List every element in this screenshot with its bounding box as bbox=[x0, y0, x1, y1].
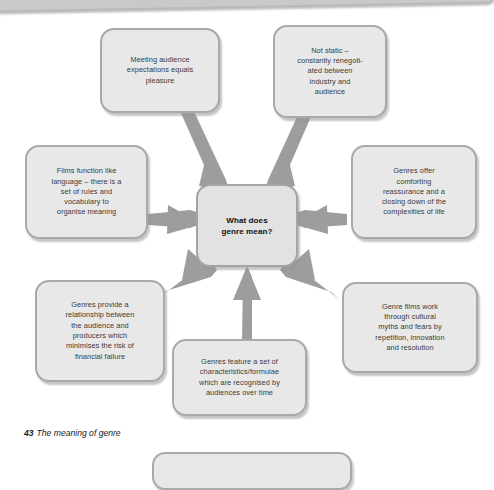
node-label: Genres feature a set of characteristics/… bbox=[199, 357, 280, 398]
node-meeting-audience-expectations[interactable]: Meeting audience expectations equals ple… bbox=[100, 28, 220, 113]
connector-right bbox=[295, 210, 347, 228]
connector-arrowhead-right bbox=[293, 205, 328, 234]
figure-caption-number: 43 bbox=[24, 428, 34, 438]
node-films-function-like-language[interactable]: Films function like language – there is … bbox=[25, 145, 148, 239]
node-genres-feature-a-set-of-characteristics[interactable]: Genres feature a set of characteristics/… bbox=[172, 339, 307, 416]
node-label: Genres provide a relationship between th… bbox=[66, 300, 135, 362]
node-genres-provide-a-relationship[interactable]: Genres provide a relationship between th… bbox=[35, 280, 165, 382]
connector-top-left bbox=[181, 107, 229, 190]
node-label: Meeting audience expectations equals ple… bbox=[127, 55, 193, 86]
page-top-bar-cutoff bbox=[0, 0, 494, 13]
node-label: Genre films work through cultural myths … bbox=[375, 302, 444, 353]
node-genre-films-work-through-cultural-myths[interactable]: Genre films work through cultural myths … bbox=[342, 282, 478, 373]
connector-bottom-center bbox=[242, 268, 252, 341]
node-label: Not static – constantly renegoti- ated b… bbox=[297, 46, 363, 97]
figure-caption: 43The meaning of genre bbox=[24, 428, 121, 438]
page-bottom-box-cutoff bbox=[152, 452, 352, 490]
connector-top-right bbox=[265, 106, 313, 190]
node-not-static[interactable]: Not static – constantly renegoti- ated b… bbox=[273, 25, 387, 118]
node-label: Films function like language – there is … bbox=[51, 166, 121, 217]
figure-caption-title: The meaning of genre bbox=[37, 428, 121, 438]
node-label: Genres offer comforting reassurance and … bbox=[382, 166, 446, 217]
connector-left bbox=[148, 210, 200, 228]
node-genres-offer-comforting-reassurance[interactable]: Genres offer comforting reassurance and … bbox=[351, 145, 477, 239]
node-center-question[interactable]: What does genre mean? bbox=[196, 184, 298, 267]
connector-bottom-right bbox=[280, 261, 340, 300]
page-top-bar-inner bbox=[0, 0, 492, 11]
center-node-label: What does genre mean? bbox=[222, 215, 273, 237]
connector-arrowhead-bottom-center bbox=[233, 266, 261, 300]
